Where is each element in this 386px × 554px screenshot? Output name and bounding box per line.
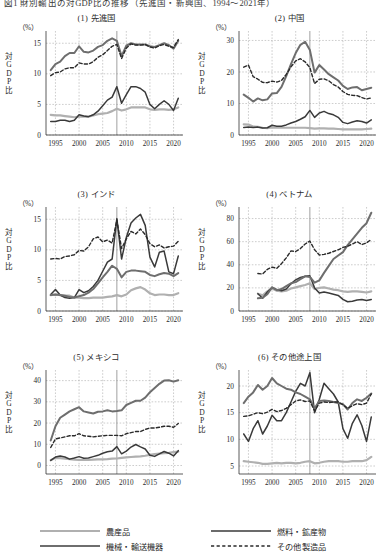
x-tick-label: 2020 — [166, 140, 181, 148]
y-unit-label-1: （%） — [18, 21, 38, 32]
y-tick-label: 20 — [227, 283, 235, 292]
x-tick-label: 2020 — [359, 479, 374, 487]
y-tick-label: 20 — [34, 419, 42, 428]
x-tick-label: 2005 — [289, 316, 304, 324]
x-tick-label: 2015 — [336, 140, 351, 148]
legend-swatch-machinery_transport — [40, 542, 100, 550]
x-tick-label: 2005 — [289, 140, 304, 148]
chart-svg-4: 020406080199520002005201020152020 — [193, 199, 386, 331]
legend-label-other_manufactures: その他製造品 — [277, 540, 326, 552]
y-tick-label: 10 — [227, 435, 235, 444]
y-tick-label: 15 — [34, 39, 42, 48]
plot-area-2: （%）対 G D P 比0102030199520002005201020152… — [193, 23, 386, 155]
x-tick-label: 2005 — [289, 479, 304, 487]
legend-item-agricultural: 農産品 — [0, 525, 193, 537]
x-tick-label: 2005 — [96, 140, 111, 148]
series-line-agricultural — [244, 457, 372, 464]
x-tick-label: 2020 — [166, 479, 181, 487]
x-tick-label: 1995 — [48, 140, 63, 148]
y-tick-label: 0 — [230, 131, 234, 140]
x-tick-label: 2020 — [359, 140, 374, 148]
y-tick-label: 0 — [37, 307, 41, 316]
y-tick-label: 20 — [227, 68, 235, 77]
x-tick-label: 2015 — [143, 479, 158, 487]
x-tick-label: 2010 — [312, 316, 327, 324]
x-tick-label: 1995 — [241, 140, 256, 148]
y-axis-label-3: 対 G D P 比 — [4, 229, 14, 271]
x-tick-label: 2010 — [119, 140, 134, 148]
chart-panel-1: (1) 先進国（%）対 G D P 比051015199520002005201… — [0, 9, 193, 185]
chart-panel-2: (2) 中国（%）対 G D P 比0102030199520002005201… — [193, 9, 386, 185]
series-line-fuel_minerals — [244, 373, 372, 442]
y-tick-label: 30 — [227, 36, 235, 45]
series-line-fuel_minerals — [244, 110, 372, 128]
plot-area-4: （%）対 G D P 比0204060801995200020052010201… — [193, 199, 386, 331]
x-tick-label: 1995 — [48, 479, 63, 487]
x-tick-label: 2010 — [119, 479, 134, 487]
x-tick-label: 2015 — [143, 316, 158, 324]
chart-legend: 農産品燃料・鉱産物機械・輸送機器その他製造品 — [0, 525, 386, 552]
chart-svg-5: 010203040199520002005201020152020 — [0, 362, 193, 494]
x-tick-label: 2000 — [265, 140, 280, 148]
x-tick-label: 2015 — [143, 140, 158, 148]
series-line-other_manufactures — [51, 423, 179, 447]
x-tick-label: 2010 — [119, 316, 134, 324]
chart-svg-3: 051015199520002005201020152020 — [0, 199, 193, 331]
x-tick-label: 2000 — [72, 140, 87, 148]
x-tick-label: 1995 — [48, 316, 63, 324]
x-tick-label: 2020 — [359, 316, 374, 324]
x-tick-label: 1995 — [241, 479, 256, 487]
chart-panel-3: (3) インド（%）対 G D P 比051015199520002005201… — [0, 185, 193, 348]
figure-page: 図1 財別輸出の対GDP比の推移（先進国・新興国、1994〜2021年） (1)… — [0, 0, 386, 554]
chart-panel-6: (6) その他途上国（%）対 G D P 比510152019952000200… — [193, 348, 386, 516]
legend-swatch-agricultural — [40, 527, 100, 535]
y-tick-label: 40 — [34, 376, 42, 385]
y-tick-label: 30 — [34, 397, 42, 406]
series-line-machinery_transport — [51, 266, 179, 298]
legend-label-fuel_minerals: 燃料・鉱産物 — [277, 525, 326, 537]
y-tick-label: 15 — [34, 215, 42, 224]
legend-label-machinery_transport: 機械・輸送機器 — [106, 540, 163, 552]
x-tick-label: 1995 — [241, 316, 256, 324]
y-tick-label: 0 — [230, 307, 234, 316]
y-unit-label-4: （%） — [211, 197, 231, 208]
x-tick-label: 2000 — [265, 479, 280, 487]
figure-caption: 図1 財別輸出の対GDP比の推移（先進国・新興国、1994〜2021年） — [4, 0, 276, 8]
y-axis-label-1: 対 G D P 比 — [4, 53, 14, 95]
y-tick-label: 40 — [227, 260, 235, 269]
chart-svg-6: 5101520199520002005201020152020 — [193, 362, 386, 494]
x-tick-label: 2005 — [96, 479, 111, 487]
series-line-machinery_transport — [244, 378, 372, 409]
y-tick-label: 0 — [37, 131, 41, 140]
x-tick-label: 2000 — [72, 316, 87, 324]
y-axis-label-2: 対 G D P 比 — [197, 53, 207, 95]
y-tick-label: 80 — [227, 214, 235, 223]
chart-panel-5: (5) メキシコ（%）対 G D P 比01020304019952000200… — [0, 348, 193, 516]
y-tick-label: 10 — [34, 245, 42, 254]
series-line-other_manufactures — [244, 59, 372, 99]
x-tick-label: 2010 — [312, 140, 327, 148]
y-tick-label: 60 — [227, 237, 235, 246]
legend-item-machinery_transport: 機械・輸送機器 — [0, 540, 193, 552]
y-tick-label: 0 — [37, 461, 41, 470]
x-tick-label: 2010 — [312, 479, 327, 487]
chart-panel-4: (4) ベトナム（%）対 G D P 比02040608019952000200… — [193, 185, 386, 348]
plot-area-1: （%）対 G D P 比0510151995200020052010201520… — [0, 23, 193, 155]
series-line-other_manufactures — [258, 239, 371, 274]
legend-item-fuel_minerals: 燃料・鉱産物 — [193, 525, 386, 537]
y-tick-label: 20 — [227, 382, 235, 391]
plot-area-6: （%）対 G D P 比5101520199520002005201020152… — [193, 362, 386, 494]
chart-svg-2: 0102030199520002005201020152020 — [193, 23, 386, 155]
plot-area-3: （%）対 G D P 比0510151995200020052010201520… — [0, 199, 193, 331]
x-tick-label: 2005 — [96, 316, 111, 324]
y-axis-label-5: 対 G D P 比 — [4, 392, 14, 434]
y-tick-label: 10 — [34, 440, 42, 449]
series-line-machinery_transport — [244, 42, 372, 102]
y-unit-label-2: （%） — [211, 21, 231, 32]
x-tick-label: 2000 — [72, 479, 87, 487]
x-tick-label: 2015 — [336, 316, 351, 324]
legend-swatch-fuel_minerals — [211, 527, 271, 535]
legend-swatch-other_manufactures — [211, 542, 271, 550]
y-axis-label-6: 対 G D P 比 — [197, 392, 207, 434]
y-tick-label: 5 — [230, 462, 234, 471]
